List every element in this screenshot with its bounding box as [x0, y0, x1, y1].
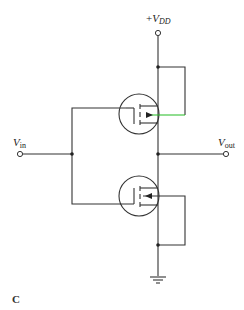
vdd-label: +VDD — [146, 12, 171, 26]
vin-terminal — [17, 151, 22, 156]
junction-dot — [156, 243, 160, 247]
schematic-svg — [0, 0, 244, 310]
cmos-inverter-diagram: +VDD Vin Vout C — [0, 0, 244, 310]
vout-label: Vout — [218, 136, 235, 150]
pmos-transistor-circle — [119, 94, 159, 134]
vdd-terminal — [155, 30, 160, 35]
figure-label: C — [12, 293, 20, 305]
vout-terminal — [223, 151, 228, 156]
nmos-gate-wire — [72, 154, 134, 204]
junction-dot — [156, 65, 160, 69]
junction-dot — [156, 152, 160, 156]
junction-dot — [70, 152, 74, 156]
pmos-gate-wire — [72, 108, 126, 154]
pmos-bulk-loop — [158, 67, 185, 115]
vin-label: Vin — [13, 136, 26, 150]
nmos-arrow-icon — [145, 193, 152, 199]
nmos-bulk-loop — [143, 196, 185, 245]
pmos-arrow-icon — [146, 112, 153, 118]
